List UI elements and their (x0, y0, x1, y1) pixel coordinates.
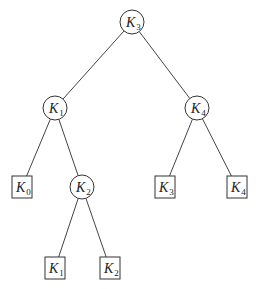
leaf-node-leaf2: K2 (100, 257, 120, 279)
node-label-base: K (190, 101, 201, 116)
node-label-base: K (48, 261, 59, 276)
edges-layer (27, 31, 232, 257)
internal-node-n2: K2 (70, 175, 94, 199)
internal-node-n1: K1 (43, 96, 67, 120)
node-label-base: K (125, 15, 136, 30)
internal-node-n4: K4 (185, 96, 209, 120)
node-label-subscript: 1 (59, 108, 64, 118)
nodes-layer: K3K1K4K0K2K3K4K1K2 (12, 10, 247, 279)
node-label-base: K (103, 261, 114, 276)
edge-n1-leaf0 (27, 119, 51, 176)
node-label-base: K (230, 180, 241, 195)
tree-diagram: K3K1K4K0K2K3K4K1K2 (0, 0, 260, 289)
node-label-subscript: 0 (26, 187, 31, 197)
edge-n1-n2 (59, 119, 78, 175)
edge-n2-leaf1 (59, 198, 79, 257)
leaf-node-leaf3: K3 (155, 176, 175, 198)
node-label-subscript: 4 (201, 108, 206, 118)
edge-root-n4 (139, 32, 190, 99)
edge-n2-leaf2 (86, 198, 106, 257)
leaf-node-leaf0: K0 (12, 176, 32, 198)
node-label-subscript: 2 (86, 187, 91, 197)
node-label-subscript: 3 (136, 22, 141, 32)
node-label-subscript: 2 (114, 268, 119, 278)
leaf-node-leaf4: K4 (227, 176, 247, 198)
node-label-subscript: 1 (59, 268, 64, 278)
edge-root-n1 (63, 31, 124, 99)
edge-n4-leaf3 (169, 119, 192, 176)
node-label-subscript: 3 (169, 187, 174, 197)
edge-n4-leaf4 (202, 119, 231, 176)
node-label-base: K (15, 180, 26, 195)
node-label-base: K (75, 180, 86, 195)
node-label-base: K (48, 101, 59, 116)
internal-node-root: K3 (120, 10, 144, 34)
leaf-node-leaf1: K1 (45, 257, 65, 279)
node-label-base: K (158, 180, 169, 195)
node-label-subscript: 4 (241, 187, 246, 197)
